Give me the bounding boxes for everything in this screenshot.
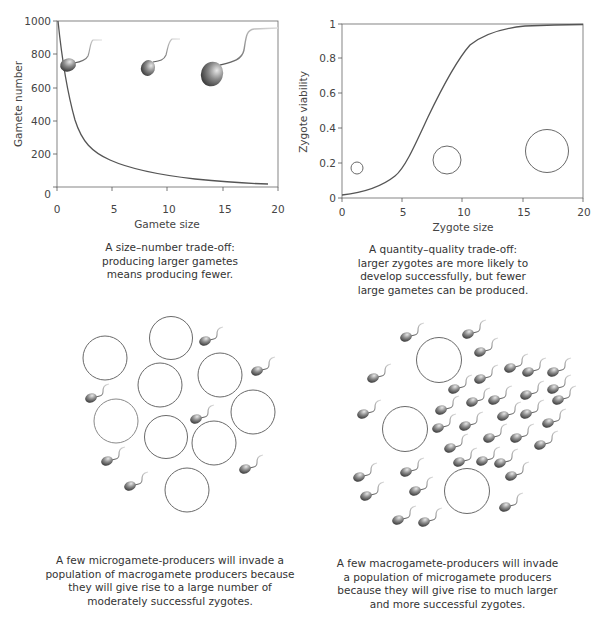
macrogamete-circle: [165, 468, 209, 512]
y-axis: [338, 24, 342, 198]
gamete-icon: [250, 357, 275, 377]
svg-text:5: 5: [111, 203, 118, 215]
microgamete-invasion-illustration: [83, 317, 275, 513]
svg-text:0.4: 0.4: [319, 122, 336, 134]
large-zygote-icon: [526, 130, 569, 173]
y-axis-label: Gamete number: [12, 60, 24, 147]
svg-text:15: 15: [517, 206, 530, 218]
medium-gamete-icon: [139, 39, 180, 78]
microgametes-right: [352, 320, 576, 528]
svg-text:1: 1: [329, 18, 336, 30]
svg-text:0.2: 0.2: [319, 157, 336, 169]
macrogamete-circle: [231, 390, 275, 434]
svg-text:5: 5: [400, 206, 407, 218]
medium-zygote-icon: [433, 146, 461, 174]
y-axis-label: Zygote viability: [297, 71, 309, 153]
svg-text:800: 800: [31, 48, 51, 60]
y-tick-labels: 1 0.8 0.6 0.4 0.2 0: [319, 18, 336, 204]
svg-text:15: 15: [218, 203, 231, 215]
macrogamete-circle: [94, 399, 138, 443]
x-axis-label: Gamete size: [134, 218, 200, 230]
gamete-number-chart: 1000 800 600 400 200 0 0 5 10 15 20 Game…: [12, 15, 285, 230]
x-tick-labels: 0 5 10 15 20: [54, 203, 285, 215]
macrogamete-circle: [198, 353, 242, 397]
svg-text:10: 10: [162, 203, 175, 215]
zygote-viability-curve: [342, 25, 583, 196]
macrogamete-circle: [145, 416, 188, 459]
zygote-viability-chart: 1 0.8 0.6 0.4 0.2 0 0 5 10 15 20 Zygote …: [297, 18, 591, 233]
svg-text:0.8: 0.8: [319, 52, 336, 64]
caption-macrogamete-invasion: A few macrogamete-producers will invade …: [300, 557, 595, 611]
small-zygote-icon: [351, 162, 363, 174]
gamete-icon: [189, 405, 214, 425]
x-axis: [342, 198, 583, 202]
gamete-number-curve: [58, 21, 268, 184]
macrogamete-circle: [192, 421, 236, 465]
macrogamete-circle: [150, 317, 193, 360]
caption-microgamete-invasion: A few microgamete-producers will invade …: [20, 554, 320, 608]
svg-text:0: 0: [339, 206, 346, 218]
macrogamete-circle: [445, 469, 490, 514]
macrogamete-circle: [83, 336, 127, 380]
svg-text:0.6: 0.6: [319, 87, 336, 99]
svg-text:1000: 1000: [24, 15, 51, 27]
y-axis: [53, 21, 57, 187]
macrogamete-circle: [383, 407, 428, 452]
large-gamete-icon: [197, 28, 278, 90]
svg-text:0: 0: [54, 203, 61, 215]
x-axis: [57, 187, 278, 191]
small-gamete-icon: [59, 40, 102, 73]
plot-frame: [342, 24, 583, 198]
microgametes-left: [84, 327, 275, 492]
svg-text:20: 20: [577, 206, 590, 218]
x-axis-label: Zygote size: [433, 221, 494, 233]
figure-canvas: 1000 800 600 400 200 0 0 5 10 15 20 Game…: [0, 0, 597, 627]
y-tick-labels: 1000 800 600 400 200 0: [24, 15, 51, 200]
caption-size-number: A size–number trade-off: producing large…: [60, 241, 280, 282]
macrogamete-circle: [417, 338, 462, 383]
macrogamete-circle: [138, 363, 182, 407]
svg-text:10: 10: [457, 206, 470, 218]
x-tick-labels: 0 5 10 15 20: [339, 206, 591, 218]
svg-text:400: 400: [31, 115, 51, 127]
svg-text:600: 600: [31, 82, 51, 94]
svg-text:0: 0: [329, 192, 336, 204]
svg-text:0: 0: [44, 188, 51, 200]
gamete-icon: [100, 447, 125, 467]
gamete-icon: [198, 327, 223, 347]
caption-quantity-quality: A quantity–quality trade-off: larger zyg…: [320, 243, 566, 297]
gamete-icon: [238, 455, 263, 475]
svg-text:20: 20: [271, 203, 284, 215]
svg-text:200: 200: [31, 148, 51, 160]
gamete-icon: [123, 472, 148, 492]
